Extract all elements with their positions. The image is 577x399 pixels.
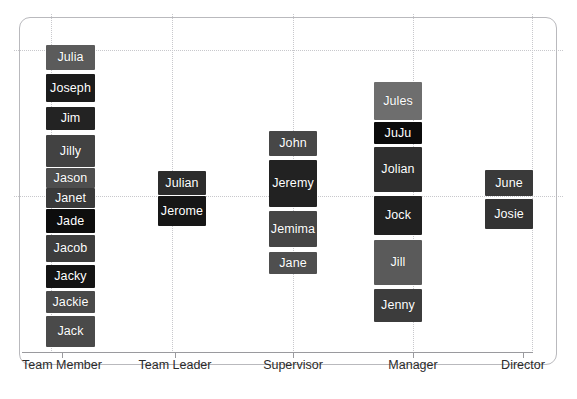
data-point-label: Julian [158, 171, 206, 195]
x-axis-label-team-leader: Team Leader [139, 358, 212, 372]
x-axis-label-director: Director [501, 358, 545, 372]
x-axis-label-manager: Manager [388, 358, 437, 372]
data-point-label: Jock [374, 196, 422, 235]
data-point-label: Jade [46, 209, 95, 233]
data-point-label: Jemima [269, 211, 317, 247]
data-point-label: Jim [46, 107, 95, 130]
data-point-label: Jules [374, 82, 422, 120]
data-point-label: Jerome [158, 196, 206, 226]
data-point-label: Jason [46, 168, 95, 188]
plot-area: JuliaJosephJimJillyJasonJanetJadeJacobJa… [0, 0, 577, 399]
chart-root: JuliaJosephJimJillyJasonJanetJadeJacobJa… [0, 0, 577, 399]
data-point-label: Josie [485, 199, 533, 229]
data-point-label: Jeremy [269, 160, 317, 207]
data-point-label: Jane [269, 252, 317, 274]
x-axis-label-supervisor: Supervisor [263, 358, 323, 372]
data-point-label: Jacob [46, 235, 95, 262]
data-point-label: JuJu [374, 122, 422, 144]
data-point-label: John [269, 131, 317, 156]
data-point-label: Jacky [46, 265, 95, 288]
data-point-label: June [485, 170, 533, 196]
data-point-label: Jack [46, 316, 95, 347]
x-axis-label-team-member: Team Member [22, 358, 102, 372]
data-point-label: Julia [46, 45, 95, 70]
data-point-label: Joseph [46, 74, 95, 102]
data-point-label: Janet [46, 188, 95, 208]
x-axis-line [22, 352, 533, 353]
data-point-label: Jilly [46, 135, 95, 167]
data-point-label: Jill [374, 240, 422, 285]
data-point-label: Jackie [46, 291, 95, 313]
data-point-label: Jolian [374, 147, 422, 192]
data-point-label: Jenny [374, 289, 422, 322]
